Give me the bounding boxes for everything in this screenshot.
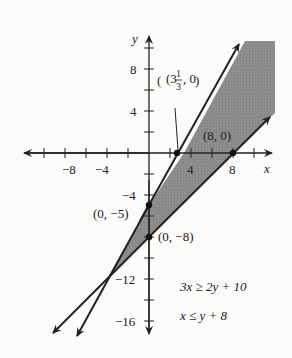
ytick-4: 4 (130, 104, 137, 119)
xtick-neg4: −4 (95, 162, 109, 177)
inequality-graph: y x −8 −4 4 8 8 4 −4 −12 −16 ( (3 1 3 , … (0, 0, 292, 358)
x-axis-label: x (263, 161, 270, 176)
y-axis-label: y (130, 31, 138, 46)
point-8-0 (230, 150, 236, 156)
leader-line (175, 108, 178, 150)
ytick-neg4: −4 (122, 188, 136, 203)
inequality-1: 3x ≥ 2y + 10 (179, 279, 247, 294)
svg-text:): ) (195, 73, 199, 88)
svg-text:1: 1 (176, 68, 181, 79)
ytick-8: 8 (130, 62, 137, 77)
ytick-neg12: −12 (115, 272, 135, 287)
inequality-2: x ≤ y + 8 (179, 308, 227, 323)
label-frac-point: ( (3 1 3 , 0 ) (157, 68, 199, 92)
label-8-0: (8, 0) (203, 128, 231, 143)
point-0-5 (146, 202, 152, 208)
point-10-3-0 (174, 150, 180, 156)
point-0-8 (146, 234, 152, 240)
svg-text:(: ( (157, 73, 161, 88)
label-0-neg8: (0, −8) (158, 229, 194, 244)
svg-text:3: 3 (176, 81, 181, 92)
xtick-neg8: −8 (62, 162, 76, 177)
xtick-8: 8 (229, 162, 236, 177)
xtick-4: 4 (187, 162, 194, 177)
label-0-neg5: (0, −5) (93, 206, 129, 221)
ytick-neg16: −16 (115, 314, 136, 329)
